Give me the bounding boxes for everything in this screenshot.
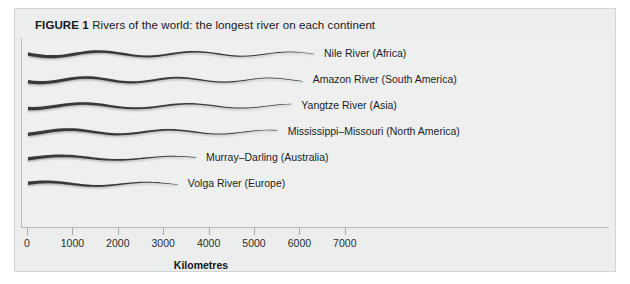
x-axis-tick: [72, 228, 73, 235]
x-axis-tick-label: 4000: [197, 237, 220, 249]
river-row: Mississippi–Missouri (North America): [22, 119, 609, 145]
x-axis-line: [21, 227, 609, 228]
river-row: Amazon River (South America): [22, 67, 609, 93]
figure-label: FIGURE 1: [35, 19, 89, 31]
x-axis-tick: [163, 228, 164, 235]
river-band: [28, 93, 296, 119]
river-row: Volga River (Europe): [22, 171, 609, 197]
river-band: [28, 171, 182, 197]
river-bands-container: Nile River (Africa)Amazon River (South A…: [22, 38, 609, 228]
chart-plot-area: Nile River (Africa)Amazon River (South A…: [21, 38, 609, 228]
x-axis-tick-label: 5000: [242, 237, 265, 249]
river-band: [28, 41, 319, 67]
x-axis-tick: [254, 228, 255, 235]
x-axis-tick: [118, 228, 119, 235]
x-axis-tick-label: 3000: [152, 237, 175, 249]
x-axis-tick: [27, 228, 28, 235]
river-row: Yangtze River (Asia): [22, 93, 609, 119]
river-row: Nile River (Africa): [22, 41, 609, 67]
river-label: Nile River (Africa): [324, 47, 406, 59]
figure-panel: FIGURE 1 Rivers of the world: the longes…: [14, 8, 616, 272]
river-label: Amazon River (South America): [313, 73, 457, 85]
river-label: Mississippi–Missouri (North America): [288, 125, 460, 137]
x-axis-tick-label: 1000: [61, 237, 84, 249]
figure-title-text: Rivers of the world: the longest river o…: [92, 19, 375, 31]
river-band: [28, 119, 282, 145]
x-axis-title: Kilometres: [41, 259, 361, 271]
x-axis-tick-label: 0: [24, 237, 30, 249]
figure-title: FIGURE 1 Rivers of the world: the longes…: [35, 19, 375, 31]
river-label: Volga River (Europe): [188, 177, 285, 189]
x-axis-tick-label: 7000: [333, 237, 356, 249]
river-band: [28, 67, 307, 93]
x-axis-tick: [209, 228, 210, 235]
x-axis-tick-label: 6000: [288, 237, 311, 249]
river-row: Murray–Darling (Australia): [22, 145, 609, 171]
x-axis-tick-label: 2000: [106, 237, 129, 249]
river-band: [28, 145, 200, 171]
x-axis-tick: [345, 228, 346, 235]
river-label: Yangtze River (Asia): [301, 99, 397, 111]
river-label: Murray–Darling (Australia): [206, 151, 329, 163]
x-axis-tick: [299, 228, 300, 235]
